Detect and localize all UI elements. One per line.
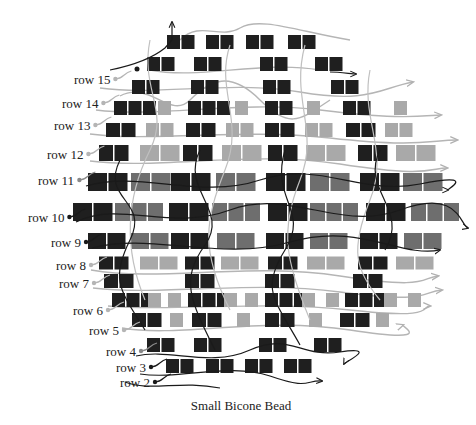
bead-light [140,257,158,270]
bead-light [385,123,398,137]
bead-dark [366,203,385,221]
bead-light [170,313,183,327]
row-label-text: row 4 [106,344,136,359]
bead-dark [263,80,276,94]
bead-dark [99,257,113,270]
bead-dark [284,145,298,161]
bead-mid [131,233,149,249]
bead-dark [203,101,216,115]
bead-dark [108,233,126,249]
bead-dark [246,35,259,49]
bead-dark [331,80,344,94]
bead-dark [261,35,274,49]
row-label-text: row 2 [120,375,150,390]
bead-dark [346,123,360,137]
bead-dark [360,293,373,307]
bead-mid [151,233,169,249]
row-label-11: row 11 [38,174,74,187]
bead-mid [404,233,422,249]
bead-light [327,257,345,270]
bead-dark [203,293,216,307]
bead-dark [260,57,273,71]
thread-start-dot [135,67,140,72]
row-label-text: row 9 [51,235,81,250]
bead-dark [221,35,234,49]
bead-dark [127,293,140,307]
bead-dark [275,57,288,71]
bead-dark [369,274,383,288]
bead-dark [280,101,293,115]
bead-dark [183,145,197,161]
bead-dark [209,57,222,71]
bead-dark [299,359,312,373]
bead-light [384,293,397,307]
bead-dark [288,35,301,49]
bead-light [221,257,239,270]
row-label-14: row 14 [62,97,98,110]
bead-dark [132,80,145,94]
bead-dark [265,313,279,327]
bead-dark [278,80,291,94]
figure-caption: Small Bicone Bead [0,398,476,414]
bead-dark [268,145,282,161]
bead-dark [191,80,204,94]
bead-dark [147,80,160,94]
row-label-text: row 7 [59,276,89,291]
bead-dark [199,145,213,161]
bead-mid [428,203,443,221]
bead-light [148,293,161,307]
bead-dark [122,123,136,137]
row-label-text: row 12 [47,147,83,162]
row-label-text: row 3 [116,360,146,375]
bead-dark [208,313,222,327]
bead-dark [260,359,273,373]
bead-dark [188,101,201,115]
bead-dark [94,203,113,221]
row-label-text: row 14 [62,96,98,111]
row-label-6: row 6 [73,304,103,317]
bead-light [158,101,171,115]
row-label-text: row 6 [73,303,103,318]
bead-light [224,293,237,307]
bead-dark [115,145,129,161]
bead-mid [237,233,255,249]
row-label-text: row 15 [74,72,110,87]
bead-light [140,145,159,161]
bead-mid [331,173,350,191]
bead-dark [192,173,211,191]
bead-dark [268,203,287,221]
bead-light [307,257,325,270]
bead-mid [152,173,171,191]
bead-dark [162,338,175,352]
bead-light [417,145,436,161]
bead-light [161,145,180,161]
bead-dark [73,203,92,221]
bead-light [408,293,421,307]
bead-light [396,145,415,161]
bead-dark [265,101,278,115]
bead-dark [381,173,400,191]
bead-row-top [167,35,316,49]
bead-dark [315,57,328,71]
row-label-2: row 2 [120,376,150,389]
row-label-10: row 10 [28,211,64,224]
bicone-bead-diagram [0,0,476,425]
bead-dark [186,123,200,137]
bead-dark [358,145,372,161]
bead-light [161,123,174,137]
row-label-7: row 7 [59,277,89,290]
row-label-12: row 12 [47,148,83,161]
bead-dark [194,57,207,71]
row-label-text: row 5 [89,323,119,338]
bead-dark [287,173,306,191]
bead-light [160,257,178,270]
bead-dark [274,338,287,352]
bead-light [326,293,339,307]
bead-dark [265,123,279,137]
bead-dark [148,313,162,327]
bead-row-row4 [147,338,342,352]
bead-dark [265,293,278,307]
bead-light [307,101,320,115]
bead-row-row5 [132,313,389,327]
caption-text: Small Bicone Bead [191,398,291,414]
